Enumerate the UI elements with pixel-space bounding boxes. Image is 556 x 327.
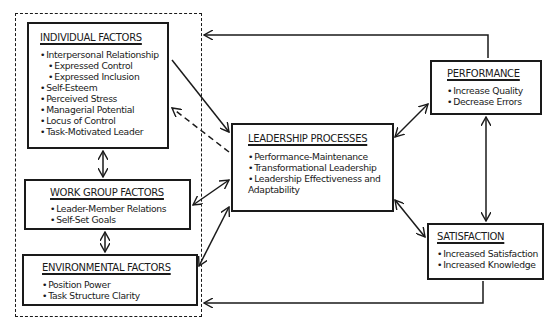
- list-item: Locus of Control: [40, 115, 167, 126]
- list-item: Interpersonal Relationship: [40, 49, 167, 60]
- environmental-factors-list: Position Power Task Structure Clarity: [42, 279, 196, 301]
- environmental-factors-title: ENVIRONMENTAL FACTORS: [42, 262, 196, 273]
- work-group-factors-list: Leader-Member Relations Self-Set Goals: [50, 203, 189, 225]
- environmental-factors-box: ENVIRONMENTAL FACTORS Position Power Tas…: [22, 254, 198, 306]
- list-item: Position Power: [42, 279, 196, 290]
- individual-factors-list: Interpersonal Relationship Expressed Con…: [40, 49, 167, 137]
- list-item: Managerial Potential: [40, 104, 167, 115]
- list-item: Increased Satisfaction: [437, 248, 542, 259]
- leadership-processes-box: LEADERSHIP PROCESSES Performance-Mainten…: [231, 123, 394, 212]
- arrow-environmental-leadership: [199, 207, 229, 266]
- performance-title: PERFORMANCE: [447, 68, 540, 79]
- performance-box: PERFORMANCE Increase Quality Decrease Er…: [430, 60, 542, 115]
- list-item: Transformational Leadership: [248, 162, 392, 173]
- list-item: Expressed Inclusion: [40, 71, 167, 82]
- list-item: Perceived Stress: [40, 93, 167, 104]
- arrow-performance-feedback: [204, 35, 488, 58]
- leadership-processes-title: LEADERSHIP PROCESSES: [248, 133, 392, 144]
- satisfaction-box: SATISFACTION Increased Satisfaction Incr…: [427, 223, 544, 280]
- list-item: Expressed Control: [40, 60, 167, 71]
- list-item: Decrease Errors: [447, 96, 540, 107]
- work-group-factors-box: WORK GROUP FACTORS Leader-Member Relatio…: [24, 179, 191, 230]
- arrow-satisfaction-feedback: [204, 281, 483, 303]
- individual-factors-title: INDIVIDUAL FACTORS: [40, 32, 167, 43]
- list-item: Increase Quality: [447, 85, 540, 96]
- satisfaction-title: SATISFACTION: [437, 231, 542, 242]
- performance-list: Increase Quality Decrease Errors: [447, 85, 540, 107]
- list-item-continuation: Adaptability: [248, 184, 392, 195]
- list-item: Task-Motivated Leader: [40, 126, 167, 137]
- list-item: Leadership Effectiveness and: [248, 173, 392, 184]
- list-item: Self-Set Goals: [50, 214, 189, 225]
- leadership-processes-list: Performance-Maintenance Transformational…: [248, 151, 392, 195]
- list-item: Task Structure Clarity: [42, 290, 196, 301]
- satisfaction-list: Increased Satisfaction Increased Knowled…: [437, 248, 542, 270]
- list-item-continuation-text: Adaptability: [248, 184, 300, 195]
- arrow-leadership-performance: [395, 104, 428, 137]
- list-item: Self-Esteem: [40, 82, 167, 93]
- individual-factors-box: INDIVIDUAL FACTORS Interpersonal Relatio…: [27, 22, 169, 149]
- arrow-leadership-satisfaction: [395, 200, 425, 237]
- list-item: Increased Knowledge: [437, 259, 542, 270]
- work-group-factors-title: WORK GROUP FACTORS: [50, 187, 189, 198]
- list-item: Performance-Maintenance: [248, 151, 392, 162]
- list-item: Leader-Member Relations: [50, 203, 189, 214]
